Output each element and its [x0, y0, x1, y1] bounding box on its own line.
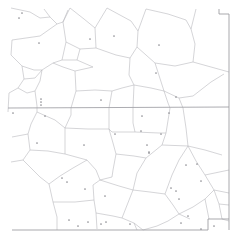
voronoi-map-canvas — [0, 0, 243, 247]
seed-point — [83, 144, 85, 146]
seed-point — [113, 35, 115, 37]
cell-edge — [93, 180, 100, 200]
seed-point — [146, 144, 148, 146]
voronoi-map-svg — [0, 0, 243, 247]
cell-edge-group-upper-right — [95, 8, 229, 108]
cell-edge — [138, 9, 146, 31]
cell-edge — [205, 170, 229, 175]
cell-edge — [191, 29, 195, 62]
cell-edge — [188, 146, 214, 190]
cell-edge — [75, 60, 93, 71]
cell-edge — [18, 88, 35, 93]
cell-edge — [122, 218, 143, 230]
cell-edge — [35, 91, 37, 106]
cell-edge — [12, 134, 28, 137]
seed-point — [44, 115, 46, 117]
cell-edge — [22, 66, 42, 70]
cell-edge — [133, 108, 135, 132]
cell-edge — [122, 190, 133, 218]
seed-point — [200, 228, 202, 230]
cell-edge — [87, 160, 100, 180]
seed-point — [196, 163, 198, 165]
seed-point — [141, 115, 143, 117]
cell-edge — [146, 9, 191, 29]
cell-edge — [134, 85, 164, 91]
cell-edge — [9, 88, 18, 93]
seed-point — [38, 42, 40, 44]
cell-edge — [37, 112, 65, 128]
seed-point — [61, 177, 63, 179]
cell-edge — [165, 146, 188, 194]
seed-point — [40, 101, 42, 103]
cell-edge — [112, 85, 134, 91]
cell-edge — [133, 190, 165, 194]
seed-point — [140, 130, 142, 132]
horizontal-axis-line — [8, 107, 229, 108]
cell-edge — [35, 70, 42, 91]
cell-edge — [214, 190, 222, 219]
cell-edge — [143, 214, 179, 230]
seed-point — [66, 181, 68, 183]
cell-edge — [107, 8, 138, 58]
cell-edge — [129, 58, 134, 85]
cell-edge — [11, 160, 23, 162]
seed-point — [40, 98, 42, 100]
seed-point — [155, 72, 157, 74]
cell-edge — [193, 62, 229, 72]
seed-point — [114, 133, 116, 135]
cell-edge — [71, 71, 76, 108]
cell-edge — [96, 213, 122, 218]
cell-edge — [135, 132, 166, 133]
horizontal-axis-group — [8, 107, 229, 108]
cell-edge — [53, 22, 66, 63]
cell-edge — [42, 63, 75, 71]
cell-edge — [49, 184, 57, 217]
seed-point — [100, 99, 102, 101]
cell-edge — [12, 24, 57, 40]
seed-point — [89, 38, 91, 40]
right-border-upper — [219, 9, 229, 230]
cell-edge — [96, 48, 130, 58]
cell-edge — [30, 150, 65, 154]
cell-edge — [28, 112, 37, 134]
cell-edge — [137, 47, 193, 66]
cell-edge — [23, 160, 49, 184]
cell-edge — [116, 154, 146, 158]
seed-point — [175, 190, 177, 192]
seed-point — [12, 112, 14, 114]
seed-point — [21, 12, 23, 14]
seed-point — [180, 222, 182, 224]
seed-point — [158, 44, 160, 46]
cell-edge — [165, 194, 179, 214]
cell-edge — [24, 70, 42, 79]
cell-edge — [109, 91, 112, 108]
seed-point — [84, 188, 86, 190]
seed-point — [105, 221, 107, 223]
seed-point — [18, 17, 20, 19]
seed-point — [187, 215, 189, 217]
cell-edge — [66, 42, 80, 49]
seed-point — [160, 133, 162, 135]
cell-edge — [49, 160, 87, 184]
cell-edge — [94, 200, 97, 229]
bottom-border — [12, 219, 229, 230]
seed-point — [104, 195, 106, 197]
seed-point — [170, 187, 172, 189]
seed-point — [175, 96, 177, 98]
cell-edge — [155, 63, 164, 91]
cell-edge — [70, 8, 96, 49]
cell-edge — [179, 98, 183, 108]
cell-edge — [100, 154, 116, 180]
seed-point — [77, 225, 79, 227]
cell-edge — [191, 9, 196, 29]
map-boundary-group — [12, 9, 229, 230]
seed-point — [87, 221, 89, 223]
cell-edge — [133, 85, 134, 108]
cell-edge-group-lower-left — [8, 93, 133, 230]
seed-point — [185, 164, 187, 166]
cell-edge — [53, 200, 94, 202]
cell-edge-group-lower-right — [100, 108, 229, 230]
seed-point — [213, 225, 215, 227]
cell-edge — [146, 133, 166, 158]
cell-edge — [11, 40, 22, 66]
